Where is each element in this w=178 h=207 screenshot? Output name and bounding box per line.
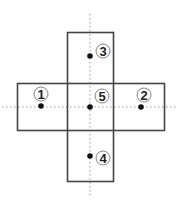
point-2-label: 2 <box>140 88 147 103</box>
point-2: 2 <box>137 88 151 110</box>
cross-diagram: 1 2 3 4 5 <box>0 0 178 207</box>
point-5-label: 5 <box>98 89 105 104</box>
point-3: 3 <box>87 44 110 59</box>
point-4-dot <box>87 153 93 159</box>
point-1-dot <box>38 103 44 109</box>
point-4: 4 <box>87 151 110 166</box>
point-4-label: 4 <box>99 151 107 166</box>
point-3-dot <box>87 53 93 59</box>
point-5-dot <box>87 104 93 110</box>
point-1: 1 <box>34 87 48 109</box>
point-3-label: 3 <box>99 44 106 59</box>
point-1-label: 1 <box>37 87 44 102</box>
point-2-dot <box>138 104 144 110</box>
